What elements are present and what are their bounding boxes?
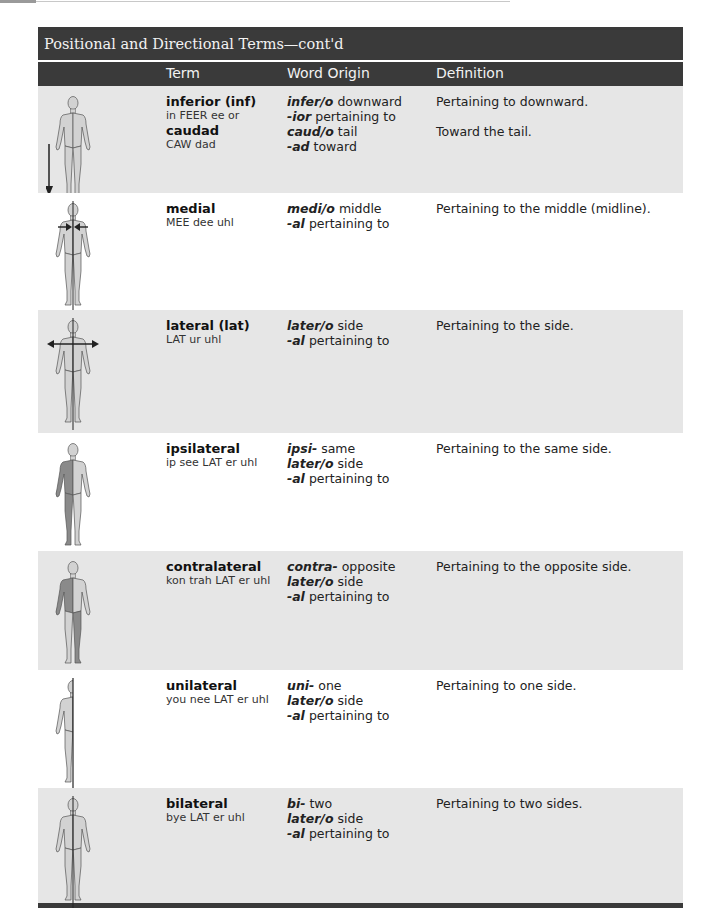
word-origin-item: -al pertaining to [287, 333, 437, 348]
column-header-word-origin: Word Origin [287, 65, 370, 81]
word-part-meaning: side [337, 693, 363, 708]
word-origin-item: -al pertaining to [287, 471, 437, 486]
word-part: -ad [287, 139, 310, 154]
word-part-meaning: pertaining to [309, 471, 390, 486]
body-figure-half-icon [46, 678, 100, 794]
definition-text: Pertaining to the opposite side. [436, 559, 681, 574]
column-header-definition: Definition [436, 65, 504, 81]
column-header-term: Term [166, 65, 200, 81]
word-origin-cell: infer/o downward-ior pertaining tocaud/o… [287, 94, 437, 154]
word-part-meaning: opposite [342, 559, 396, 574]
table-row: unilateralyou nee LAT er uhluni- onelate… [38, 670, 683, 788]
definition-text: Pertaining to one side. [436, 678, 681, 693]
page-top-rule [0, 0, 701, 3]
word-part-meaning: downward [337, 94, 401, 109]
definition-text: Pertaining to the middle (midline). [436, 201, 681, 216]
word-origin-item: contra- opposite [287, 559, 437, 574]
word-part: medi/o [287, 201, 335, 216]
word-part-meaning: one [318, 678, 341, 693]
word-part-meaning: toward [314, 139, 357, 154]
body-figure-arrows-inward-icon [46, 201, 100, 317]
word-part: -al [287, 826, 305, 841]
word-origin-item: infer/o downward [287, 94, 437, 109]
table-row: ipsilateralip see LAT er uhlipsi- samela… [38, 433, 683, 551]
word-part: caud/o [287, 124, 334, 139]
word-part: uni- [287, 678, 314, 693]
word-part: later/o [287, 456, 334, 471]
word-origin-cell: medi/o middle-al pertaining to [287, 201, 437, 231]
definition-cell: Pertaining to the opposite side. [436, 559, 681, 574]
word-origin-item: later/o side [287, 574, 437, 589]
word-part: -al [287, 589, 305, 604]
word-part-meaning: tail [338, 124, 358, 139]
word-origin-item: -al pertaining to [287, 708, 437, 723]
word-origin-item: bi- two [287, 796, 437, 811]
word-part-meaning: side [337, 811, 363, 826]
definition-cell: Pertaining to the middle (midline). [436, 201, 681, 216]
definition-cell: Pertaining to the side. [436, 318, 681, 333]
definition-cell: Pertaining to one side. [436, 678, 681, 693]
top-rule-line [36, 1, 510, 2]
word-part: -al [287, 333, 305, 348]
word-part: later/o [287, 693, 334, 708]
word-origin-item: -al pertaining to [287, 216, 437, 231]
body-figure-opposite-side-shaded-icon [46, 559, 100, 675]
top-rule-accent [0, 0, 36, 3]
word-origin-item: medi/o middle [287, 201, 437, 216]
word-origin-item: caud/o tail [287, 124, 437, 139]
word-part: infer/o [287, 94, 333, 109]
word-origin-cell: later/o side-al pertaining to [287, 318, 437, 348]
body-figure-same-side-shaded-icon [46, 441, 100, 557]
definition-text: Pertaining to the same side. [436, 441, 681, 456]
table-row: contralateralkon trah LAT er uhlcontra- … [38, 551, 683, 670]
definition-cell: Pertaining to two sides. [436, 796, 681, 811]
word-part: bi- [287, 796, 305, 811]
word-part: contra- [287, 559, 338, 574]
definition-text: Pertaining to the side. [436, 318, 681, 333]
word-part: ipsi- [287, 441, 317, 456]
definition-text: Toward the tail. [436, 124, 681, 139]
table-row: bilateralbye LAT er uhlbi- twolater/o si… [38, 788, 683, 903]
definition-text: Pertaining to downward. [436, 94, 681, 109]
word-origin-item: later/o side [287, 811, 437, 826]
word-part: later/o [287, 811, 334, 826]
table-body: inferior (inf)in FEER ee orcaudadCAW dad… [38, 86, 683, 903]
definition-text: Pertaining to two sides. [436, 796, 681, 811]
word-origin-cell: bi- twolater/o side-al pertaining to [287, 796, 437, 841]
word-origin-item: -al pertaining to [287, 826, 437, 841]
word-part: -al [287, 471, 305, 486]
word-part-meaning: side [337, 574, 363, 589]
word-part-meaning: pertaining to [309, 333, 390, 348]
word-part-meaning: pertaining to [309, 589, 390, 604]
table-row: medialMEE dee uhlmedi/o middle-al pertai… [38, 193, 683, 310]
table-bottom-bar [38, 903, 683, 908]
definition-text [436, 109, 681, 124]
word-part-meaning: middle [339, 201, 382, 216]
column-header-row: Term Word Origin Definition [38, 62, 683, 86]
table-row: inferior (inf)in FEER ee orcaudadCAW dad… [38, 86, 683, 193]
word-origin-item: later/o side [287, 318, 437, 333]
table-title: Positional and Directional Terms—cont'd [38, 27, 683, 60]
word-origin-item: -ior pertaining to [287, 109, 437, 124]
word-origin-item: later/o side [287, 693, 437, 708]
word-origin-item: -al pertaining to [287, 589, 437, 604]
word-part: later/o [287, 574, 334, 589]
word-origin-cell: ipsi- samelater/o side-al pertaining to [287, 441, 437, 486]
body-figure-midline-icon [46, 796, 100, 912]
word-part-meaning: side [337, 318, 363, 333]
word-part-meaning: pertaining to [315, 109, 396, 124]
word-origin-cell: uni- onelater/o side-al pertaining to [287, 678, 437, 723]
word-part-meaning: pertaining to [309, 216, 390, 231]
word-origin-item: ipsi- same [287, 441, 437, 456]
word-origin-item: uni- one [287, 678, 437, 693]
word-part: later/o [287, 318, 334, 333]
word-part: -al [287, 216, 305, 231]
definition-cell: Pertaining to the same side. [436, 441, 681, 456]
table-row: lateral (lat)LAT ur uhllater/o side-al p… [38, 310, 683, 433]
word-part: -al [287, 708, 305, 723]
word-part-meaning: side [337, 456, 363, 471]
word-origin-item: later/o side [287, 456, 437, 471]
word-part-meaning: pertaining to [309, 826, 390, 841]
word-origin-cell: contra- oppositelater/o side-al pertaini… [287, 559, 437, 604]
word-origin-item: -ad toward [287, 139, 437, 154]
